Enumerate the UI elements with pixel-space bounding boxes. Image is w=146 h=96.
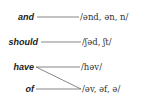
ipa-of: /əv, əf, ə/ xyxy=(82,84,120,94)
ipa-have: /həv/ xyxy=(81,62,102,72)
line-have-of xyxy=(36,67,81,89)
ipa-should: /ʃəd, ʃt/ xyxy=(82,37,112,47)
ipa-and: /ənd, ən, n/ xyxy=(80,12,128,22)
